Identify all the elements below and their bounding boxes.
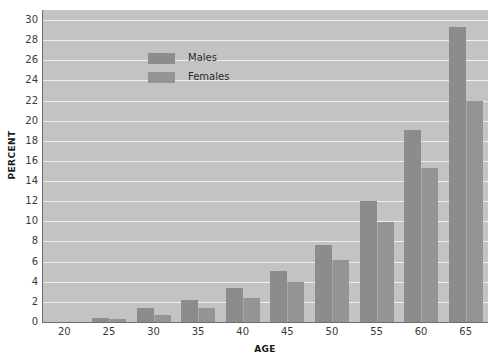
x-axis-line [42, 322, 488, 323]
bar-group-age-25 [92, 10, 126, 322]
y-tick-label-28: 28 [2, 35, 38, 45]
bar-chart: 024681012141618202224262830 Males Female… [0, 0, 496, 361]
bar-males-age-65 [449, 27, 466, 322]
x-tick-label-35: 35 [176, 326, 220, 338]
x-axis-title: AGE [42, 344, 488, 354]
y-tick-label-12: 12 [2, 196, 38, 206]
legend-swatch-females [148, 72, 175, 83]
bar-group-age-65 [449, 10, 483, 322]
bar-females-age-60 [421, 168, 438, 322]
bar-females-age-35 [198, 308, 215, 322]
bar-males-age-35 [181, 300, 198, 322]
x-tick-label-40: 40 [221, 326, 265, 338]
legend-swatch-males [148, 53, 175, 64]
y-tick-label-24: 24 [2, 75, 38, 85]
y-tick-label-26: 26 [2, 55, 38, 65]
bar-group-age-20 [47, 10, 81, 322]
bar-females-age-55 [377, 222, 394, 322]
bar-group-age-60 [404, 10, 438, 322]
legend-label-females: Females [188, 70, 229, 84]
y-axis-ticks: 024681012141618202224262830 [0, 0, 38, 361]
legend-item-females: Females [148, 70, 268, 89]
x-tick-label-55: 55 [355, 326, 399, 338]
x-tick-label-45: 45 [265, 326, 309, 338]
x-tick-label-50: 50 [310, 326, 354, 338]
bar-males-age-60 [404, 130, 421, 322]
bar-males-age-45 [270, 271, 287, 322]
y-axis-title: PERCENT [7, 125, 17, 185]
y-tick-label-4: 4 [2, 277, 38, 287]
y-tick-label-2: 2 [2, 297, 38, 307]
legend-item-males: Males [148, 51, 268, 70]
x-tick-label-65: 65 [444, 326, 488, 338]
bar-males-age-50 [315, 245, 332, 322]
y-tick-label-30: 30 [2, 15, 38, 25]
bar-group-age-50 [315, 10, 349, 322]
bar-females-age-40 [243, 298, 260, 322]
bar-females-age-65 [466, 101, 483, 322]
y-tick-label-10: 10 [2, 216, 38, 226]
x-axis-ticks: 20253035404550556065 [42, 326, 488, 342]
bar-males-age-30 [137, 308, 154, 322]
bar-group-age-45 [270, 10, 304, 322]
x-tick-label-30: 30 [132, 326, 176, 338]
x-tick-label-60: 60 [399, 326, 443, 338]
x-tick-label-25: 25 [87, 326, 131, 338]
y-tick-label-22: 22 [2, 96, 38, 106]
bar-females-age-45 [287, 282, 304, 322]
bar-group-age-55 [360, 10, 394, 322]
legend: Males Females [148, 51, 268, 89]
plot-area: Males Females [42, 10, 488, 322]
bar-females-age-50 [332, 260, 349, 322]
y-tick-label-8: 8 [2, 236, 38, 246]
x-tick-label-20: 20 [42, 326, 86, 338]
y-axis-line [42, 10, 43, 323]
bar-males-age-55 [360, 201, 377, 322]
bar-males-age-40 [226, 288, 243, 322]
legend-label-males: Males [188, 51, 217, 65]
y-tick-label-6: 6 [2, 257, 38, 267]
y-tick-label-0: 0 [2, 317, 38, 327]
